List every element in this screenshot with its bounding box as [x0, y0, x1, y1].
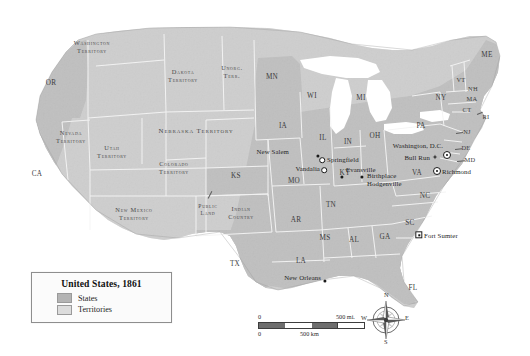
compass-label-north: N: [384, 291, 389, 298]
scale-labels-miles: 0 500 mi.: [258, 313, 368, 322]
territory-label-utah: Utah Territory: [97, 144, 127, 161]
state-label-tn: TN: [326, 202, 336, 210]
richmond-marker: [433, 167, 441, 175]
state-label-ar: AR: [291, 217, 302, 225]
place-label-washington-dc: Washington, D.C.: [393, 142, 443, 149]
scale-bar: 0 500 mi. 0 500 km: [258, 313, 368, 339]
territory-label-colorado: Colorado Territory: [159, 160, 189, 177]
place-label-bull-run: Bull Run: [404, 154, 430, 161]
territory-label-new-mexico: New Mexico Territory: [115, 206, 152, 223]
legend-label-territories: Territories: [78, 305, 112, 314]
scale-km-max: 500 km: [300, 330, 319, 337]
state-label-mi: MI: [356, 95, 365, 103]
state-label-ri: RI: [483, 114, 490, 121]
state-label-ms: MS: [320, 235, 331, 243]
territory-label-nevada: Nevada Territory: [56, 129, 86, 146]
place-label-new-orleans: New Orleans: [284, 274, 321, 281]
scale-labels-km: 0 500 km: [258, 330, 368, 339]
territory-label-public-land: Public Land: [198, 203, 217, 218]
legend-swatch-states: [57, 293, 72, 303]
washington-dc-marker: [443, 151, 451, 159]
place-label-birthplace-hodgenville: Birthplace Hodgenville: [367, 172, 402, 189]
map-container: Washington Territory Dakota Territory Un…: [0, 0, 530, 356]
state-label-vt: VT: [456, 77, 465, 84]
compass-rose: N E S W: [358, 292, 414, 348]
legend-entry-states: States: [57, 293, 164, 303]
state-label-al: AL: [349, 237, 359, 245]
state-label-nc: NC: [420, 193, 431, 201]
place-label-richmond: Richmond: [442, 168, 471, 175]
scale-km-min: 0: [258, 330, 261, 337]
state-label-or: OR: [46, 80, 57, 88]
state-label-ca: CA: [32, 171, 43, 179]
state-label-ma: MA: [467, 96, 478, 103]
vandalia-marker: [321, 167, 327, 173]
territory-label-washington: Washington Territory: [74, 39, 110, 56]
state-label-ny: NY: [436, 95, 447, 103]
legend-label-states: States: [78, 294, 98, 303]
state-label-mn: MN: [266, 74, 278, 82]
state-label-de: DE: [461, 145, 470, 152]
state-label-ia: IA: [279, 123, 287, 131]
territory-label-unorganized: Unorg. Terr.: [221, 64, 243, 81]
state-label-tx: TX: [230, 261, 240, 269]
territory-label-dakota: Dakota Territory: [168, 68, 198, 85]
legend-entry-territories: Territories: [57, 305, 164, 315]
place-label-new-salem: New Salem: [257, 148, 289, 155]
scale-bar-graphic: [258, 322, 365, 329]
legend-swatch-territories: [57, 305, 72, 315]
place-label-springfield: Springfield: [327, 156, 359, 163]
place-label-fort-sumter: Fort Sumter: [424, 232, 458, 239]
state-label-il: IL: [319, 135, 326, 143]
springfield-marker: [319, 157, 325, 163]
state-label-sc: SC: [405, 220, 414, 228]
state-label-ga: GA: [380, 234, 391, 242]
compass-label-east: E: [405, 314, 409, 321]
state-label-va: VA: [412, 170, 422, 178]
fort-sumter-marker: [415, 231, 422, 238]
territory-label-indian-country: Indian Country: [228, 205, 254, 222]
scale-miles-max: 500 mi.: [336, 313, 355, 320]
state-label-nh: NH: [468, 86, 478, 93]
scale-miles-min: 0: [258, 313, 261, 320]
state-label-ct: CT: [463, 107, 472, 114]
state-label-in: IN: [344, 139, 352, 147]
state-label-wi: WI: [307, 93, 317, 101]
state-label-ks: KS: [231, 173, 241, 181]
state-label-la: LA: [296, 258, 306, 266]
map-legend: United States, 1861 States Territories: [31, 272, 172, 323]
legend-title: United States, 1861: [39, 278, 164, 289]
compass-label-west: W: [361, 314, 367, 321]
territory-label-nebraska: Nebraska Territory: [159, 127, 234, 134]
place-label-vandalia: Vandalia: [295, 165, 320, 172]
compass-label-south: S: [384, 338, 388, 345]
state-label-md: MD: [465, 157, 476, 164]
state-label-oh: OH: [370, 133, 381, 141]
state-label-nj: NJ: [463, 129, 471, 136]
state-label-me: ME: [481, 52, 492, 60]
state-label-pa: PA: [416, 123, 425, 131]
state-label-mo: MO: [288, 178, 300, 186]
